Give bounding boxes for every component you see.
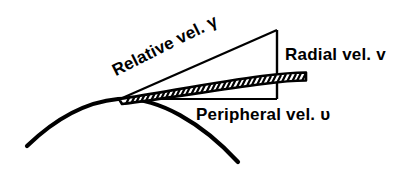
velocity-triangle-figure: Relative vel. γ Radial vel. v Peripheral… [0,0,410,175]
peripheral-velocity-label: Peripheral vel. υ [196,106,330,123]
radial-velocity-label: Radial vel. v [285,46,386,63]
